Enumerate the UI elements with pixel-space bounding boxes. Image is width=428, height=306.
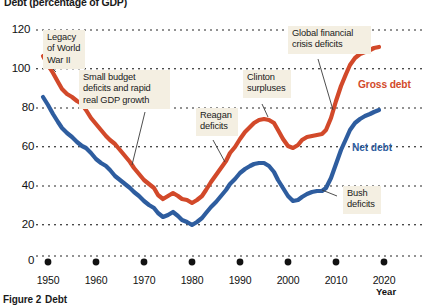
annotation-clinton-surpluses: Clinton surpluses xyxy=(243,70,291,98)
figure-caption-text: Debt xyxy=(45,294,67,305)
leader-line-gfc xyxy=(318,59,333,110)
leader-line-bush xyxy=(322,190,337,196)
leader-line-clinton xyxy=(262,104,268,117)
leader-line-smallbud xyxy=(132,112,145,165)
annotation-legacy-world-war-ii: Legacy of World War II xyxy=(43,30,85,69)
annotation-reagan-deficits: Reagan deficits xyxy=(196,108,238,136)
x-axis-tick-dots xyxy=(45,259,388,266)
figure-debt-chart: Debt (percentage of GDP) 0 20 40 60 80 1… xyxy=(0,0,428,306)
figure-caption: Figure 2Debt xyxy=(3,294,67,305)
annotation-small-budget-deficits: Small budget deficits and rapid real GDP… xyxy=(79,70,170,109)
annotation-global-financial-crisis-deficits: Global financial crisis deficits xyxy=(288,26,371,54)
annotation-bush-deficits: Bush deficits xyxy=(343,186,381,214)
series-label-net-debt: Net debt xyxy=(352,142,392,153)
leader-line-reagan xyxy=(213,140,225,162)
series-label-gross-debt: Gross debt xyxy=(358,79,411,90)
figure-caption-number: Figure 2 xyxy=(3,294,41,305)
